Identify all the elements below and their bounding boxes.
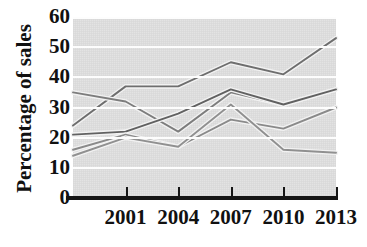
- gridline-60: [73, 17, 336, 19]
- y-tick-label-20: 20: [30, 127, 70, 148]
- y-tick-label-40: 40: [30, 66, 70, 87]
- gridline-50: [73, 46, 336, 48]
- gridline-30: [73, 107, 336, 109]
- x-tick-mark-2010: [283, 187, 285, 196]
- y-tick-label-30: 30: [30, 97, 70, 118]
- x-tick-mark-2013: [336, 187, 338, 196]
- y-tick-label-50: 50: [30, 36, 70, 57]
- x-tick-label-2004: 2004: [157, 205, 199, 230]
- x-tick-mark-2004: [178, 187, 180, 196]
- gridline-40: [73, 76, 336, 78]
- gridline-10: [73, 167, 336, 169]
- x-axis-line: [66, 196, 338, 200]
- x-tick-label-2010: 2010: [262, 205, 304, 230]
- y-axis-tick-labels: 6050403020100: [26, 0, 70, 247]
- y-tick-label-0: 0: [30, 187, 70, 208]
- x-tick-label-2013: 2013: [315, 205, 357, 230]
- plot-area: [73, 17, 336, 198]
- y-tick-label-60: 60: [30, 6, 70, 27]
- x-tick-mark-2007: [231, 187, 233, 196]
- gridline-20: [73, 137, 336, 139]
- line-chart: Percentage of sales 6050403020100 200120…: [0, 0, 367, 247]
- x-tick-mark-2001: [126, 187, 128, 196]
- x-tick-label-2007: 2007: [210, 205, 252, 230]
- y-tick-label-10: 10: [30, 157, 70, 178]
- x-tick-label-2001: 2001: [105, 205, 147, 230]
